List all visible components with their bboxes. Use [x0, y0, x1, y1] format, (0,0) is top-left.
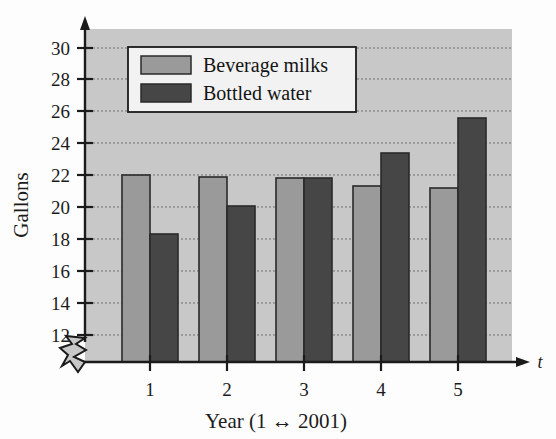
- y-tick-label-24: 24: [51, 133, 71, 154]
- bar-beverage-milks-4: [353, 186, 381, 362]
- bar-group-3: [276, 178, 332, 362]
- legend-swatch-beverage-milks: [141, 56, 191, 74]
- bar-bottled-water-1: [150, 234, 178, 362]
- y-tick-label-18: 18: [51, 229, 70, 250]
- bar-beverage-milks-5: [430, 188, 458, 362]
- bar-bottled-water-3: [304, 178, 332, 362]
- y-axis-arrowhead: [80, 16, 90, 30]
- bar-chart-figure: 30 28 26 24 22 20 18 16 14 12 1 2 3 4 5 …: [0, 0, 556, 439]
- y-tick-label-16: 16: [51, 261, 70, 282]
- bar-bottled-water-2: [227, 206, 255, 362]
- bar-beverage-milks-3: [276, 178, 304, 362]
- x-tick-label-5: 5: [453, 379, 463, 400]
- y-tick-label-20: 20: [51, 197, 70, 218]
- x-tick-label-3: 3: [299, 379, 309, 400]
- y-tick-label-30: 30: [51, 38, 70, 59]
- bar-bottled-water-5: [458, 118, 486, 362]
- y-tick-label-14: 14: [51, 293, 71, 314]
- x-tick-label-1: 1: [145, 379, 155, 400]
- legend-label-bottled-water: Bottled water: [203, 82, 312, 104]
- bar-bottled-water-4: [381, 153, 409, 362]
- y-tick-label-26: 26: [51, 101, 70, 122]
- bar-beverage-milks-2: [199, 177, 227, 362]
- legend: Beverage milks Bottled water: [128, 47, 356, 112]
- y-tick-label-12: 12: [51, 325, 70, 346]
- bar-beverage-milks-1: [122, 175, 150, 362]
- x-tick-label-2: 2: [222, 379, 232, 400]
- chart-canvas: 30 28 26 24 22 20 18 16 14 12 1 2 3 4 5 …: [0, 0, 556, 439]
- x-axis-arrowhead: [516, 357, 530, 367]
- y-tick-label-22: 22: [51, 165, 70, 186]
- x-axis-variable-label: t: [537, 352, 543, 372]
- x-axis-title: Year (1 ↔ 2001): [205, 409, 347, 433]
- y-axis-title: Gallons: [9, 172, 33, 237]
- legend-swatch-bottled-water: [141, 84, 191, 102]
- y-tick-label-28: 28: [51, 69, 70, 90]
- legend-label-beverage-milks: Beverage milks: [203, 54, 328, 77]
- x-tick-label-4: 4: [376, 379, 386, 400]
